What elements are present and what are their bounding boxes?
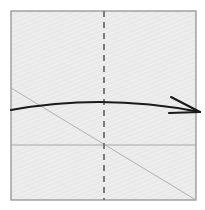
- arrow-head-lower-barb: [169, 112, 200, 113]
- diagram-canvas: Origami fold step diagram Square sheet o…: [0, 0, 205, 210]
- origami-fold-diagram: Origami fold step diagram Square sheet o…: [0, 0, 205, 210]
